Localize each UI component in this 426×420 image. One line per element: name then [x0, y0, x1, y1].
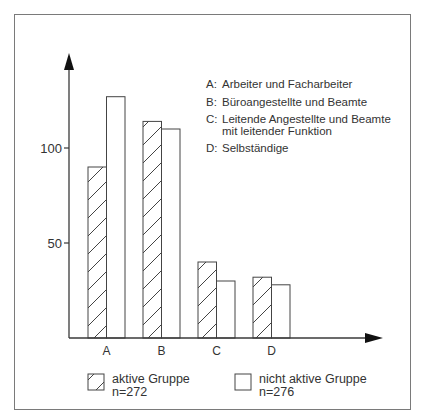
bar-b-active	[143, 121, 162, 338]
bar-chart: 50100 ABCD A:Arbeiter und FacharbeiterB:…	[0, 0, 426, 420]
category-descriptions: A:Arbeiter und FacharbeiterB:Büroangeste…	[206, 78, 391, 154]
bar-d-inactive	[272, 285, 291, 338]
description-key: A:	[206, 78, 217, 90]
y-tick-label: 100	[40, 141, 62, 156]
x-axis-arrow-icon	[365, 333, 383, 343]
description-key: B:	[206, 96, 217, 108]
bar-c-inactive	[217, 281, 236, 338]
description-text: Büroangestellte und Beamte	[222, 96, 367, 108]
bar-a-inactive	[107, 97, 126, 338]
legend-active-n: n=272	[112, 386, 190, 399]
x-label-c: C	[212, 344, 221, 358]
description-text: Leitende Angestellte und Beamte	[222, 113, 391, 125]
y-tick-label: 50	[48, 236, 62, 251]
x-label-a: A	[102, 344, 110, 358]
legend-inactive: nicht aktive Gruppe n=276	[259, 373, 367, 399]
bar-a-active	[88, 167, 107, 338]
y-axis-arrow-icon	[64, 53, 74, 70]
description-key: C:	[206, 113, 218, 125]
description-key: D:	[206, 142, 218, 154]
x-label-b: B	[157, 344, 165, 358]
legend-swatch-empty	[235, 374, 251, 390]
bar-c-active	[198, 262, 217, 338]
legend-active: aktive Gruppe n=272	[112, 373, 190, 399]
legend-swatch-hatched	[88, 374, 104, 390]
x-label-d: D	[267, 344, 276, 358]
legend-inactive-n: n=276	[259, 386, 367, 399]
y-ticks: 50100	[40, 141, 69, 251]
description-text: mit leitender Funktion	[222, 125, 332, 137]
bar-b-inactive	[162, 129, 181, 338]
bar-d-active	[253, 277, 272, 338]
description-text: Selbständige	[222, 142, 289, 154]
description-text: Arbeiter und Facharbeiter	[222, 78, 353, 90]
x-labels: ABCD	[102, 344, 276, 358]
